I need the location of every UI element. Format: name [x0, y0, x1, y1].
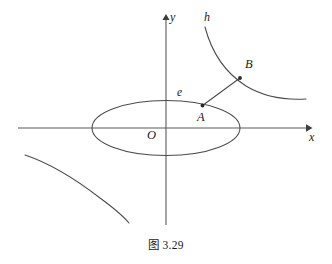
- point-B-marker: [238, 76, 242, 80]
- geometry-canvas: [0, 0, 332, 264]
- hyperbola-branch-lower-left: [25, 155, 129, 223]
- point-B-label: B: [245, 58, 253, 71]
- figure-caption: 图 3.29: [0, 236, 332, 252]
- hyperbola-label-h: h: [204, 11, 210, 23]
- x-axis: [18, 124, 313, 132]
- y-axis-arrowhead: [162, 14, 169, 20]
- ellipse-label-e: e: [177, 87, 182, 99]
- y-axis: [162, 14, 169, 225]
- y-axis-label: y: [170, 11, 175, 23]
- origin-label: O: [147, 129, 156, 142]
- hyperbola-branch-upper-right: [205, 27, 306, 99]
- point-A-label: A: [197, 111, 205, 124]
- figure-3-29: y x h e B A O 图 3.29: [0, 0, 332, 264]
- point-A-marker: [201, 104, 205, 108]
- x-axis-label: x: [309, 131, 314, 143]
- segment-AB: [203, 78, 241, 106]
